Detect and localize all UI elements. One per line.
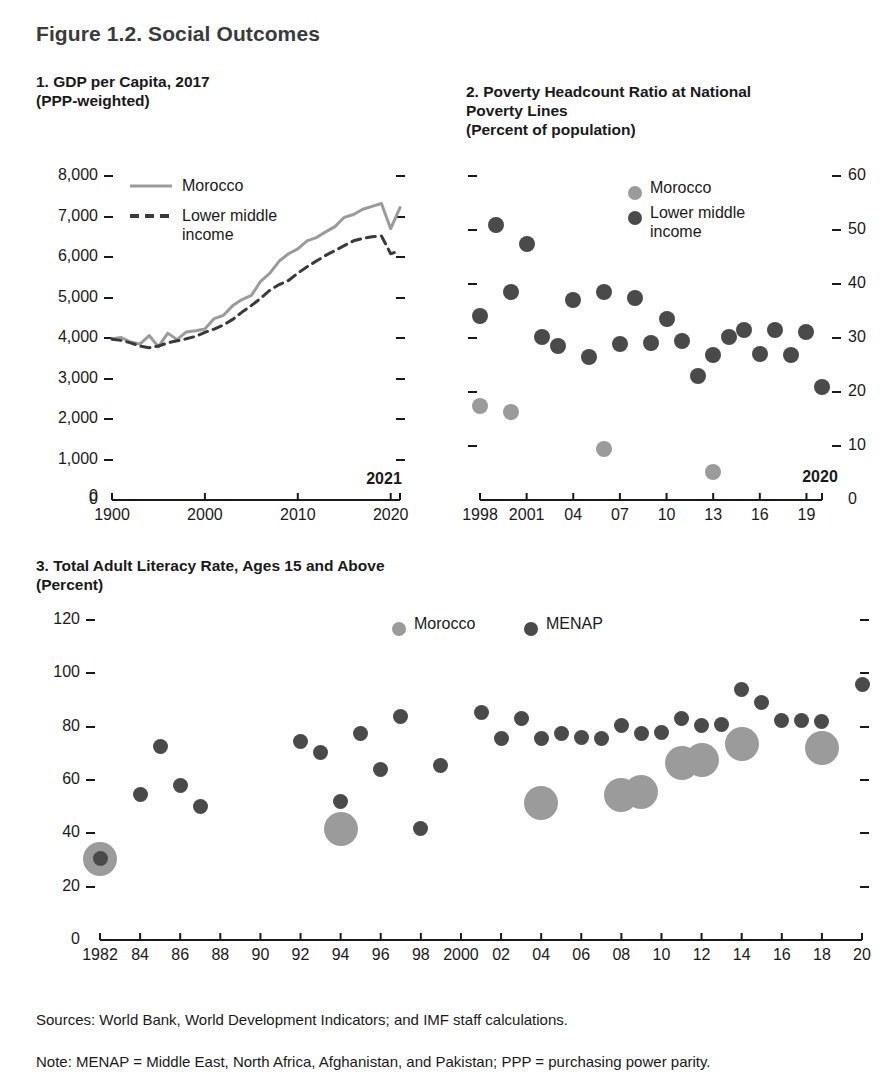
panel-3-point-1 bbox=[534, 731, 549, 746]
panel-3-point-1 bbox=[774, 713, 789, 728]
panel-3-point-0 bbox=[805, 731, 839, 765]
panel-3-point-0 bbox=[324, 812, 358, 846]
panel-3-point-1 bbox=[413, 821, 428, 836]
panel-3-point-1 bbox=[474, 705, 489, 720]
panel-3-xtick-label: 20 bbox=[832, 946, 888, 964]
sources-line: Sources: World Bank, World Development I… bbox=[36, 1009, 711, 1030]
panel-3-legend-dot-morocco bbox=[392, 622, 406, 636]
panel-3-point-0 bbox=[685, 743, 719, 777]
panel-3-point-1 bbox=[554, 726, 569, 741]
panel-3-point-1 bbox=[574, 730, 589, 745]
panel-3-point-0 bbox=[725, 727, 759, 761]
panel-3-point-1 bbox=[794, 713, 809, 728]
panel-3-point-1 bbox=[654, 725, 669, 740]
panel-3-point-0 bbox=[524, 786, 558, 820]
panel-3-point-1 bbox=[855, 677, 870, 692]
panel-3-point-1 bbox=[594, 731, 609, 746]
panel-3-point-1 bbox=[373, 762, 388, 777]
panel-3-legend-dot-menap bbox=[524, 622, 538, 636]
panel-3-legend-morocco: Morocco bbox=[414, 614, 475, 633]
panel-3-legend-menap: MENAP bbox=[546, 614, 603, 633]
panel-3-point-1 bbox=[494, 731, 509, 746]
panel-3-point-1 bbox=[293, 734, 308, 749]
panel-3-point-1 bbox=[393, 709, 408, 724]
panel-3-point-1 bbox=[714, 717, 729, 732]
panel-3-point-1 bbox=[313, 745, 328, 760]
figure-notes: Sources: World Bank, World Development I… bbox=[36, 988, 711, 1074]
panel-3-point-1 bbox=[153, 739, 168, 754]
panel-3-point-1 bbox=[193, 799, 208, 814]
panel-3-point-1 bbox=[93, 851, 108, 866]
panel-3-point-1 bbox=[133, 787, 148, 802]
panel-3-point-1 bbox=[614, 718, 629, 733]
panel-3-point-1 bbox=[734, 682, 749, 697]
panel-3-axes bbox=[0, 0, 888, 1000]
panel-3-point-1 bbox=[634, 726, 649, 741]
panel-3-point-1 bbox=[333, 794, 348, 809]
note-line: Note: MENAP = Middle East, North Africa,… bbox=[36, 1051, 711, 1072]
panel-3-point-1 bbox=[353, 726, 368, 741]
panel-3-point-1 bbox=[173, 778, 188, 793]
panel-3-point-1 bbox=[514, 711, 529, 726]
panel-3-point-1 bbox=[694, 718, 709, 733]
